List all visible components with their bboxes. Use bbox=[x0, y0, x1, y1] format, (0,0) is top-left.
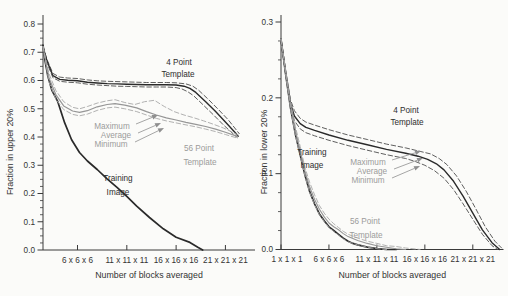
series-4-point-template-average bbox=[281, 39, 500, 249]
annotation-arrowhead-icon bbox=[417, 158, 423, 162]
y-axis-title: Fraction in upper 20% bbox=[5, 109, 15, 195]
annotation-label: Template bbox=[161, 70, 195, 79]
annotation-label: Training bbox=[103, 174, 133, 183]
annotation-label: 56 Point bbox=[350, 217, 381, 226]
x-tick-label: 21 x 21 x 21 bbox=[203, 256, 248, 265]
annotation-label: Average bbox=[357, 167, 388, 176]
y-tick-label: 0.6 bbox=[24, 76, 36, 85]
y-tick-label: 0.4 bbox=[24, 133, 36, 142]
annotation-label: Minimum bbox=[351, 176, 384, 185]
annotation-arrowhead-icon bbox=[415, 150, 421, 155]
x-tick-label: 21 x 21 x 21 bbox=[451, 255, 496, 264]
y-axis-title: Fraction in lower 20% bbox=[259, 110, 269, 195]
annotation-arrowhead-icon bbox=[158, 128, 164, 133]
y-tick-label: 0.3 bbox=[262, 18, 274, 27]
figure-canvas: 0.00.10.20.30.40.50.60.70.86 x 6 x 611 x… bbox=[0, 0, 508, 296]
series-4-point-template-maximum bbox=[43, 47, 239, 134]
annotation-label: Minimum bbox=[94, 140, 127, 149]
series-4-point-template-minimum bbox=[281, 39, 498, 249]
x-tick-label: 6 x 6 x 6 bbox=[313, 255, 344, 264]
annotation-arrowhead-icon bbox=[414, 166, 420, 171]
annotation-arrow-line bbox=[138, 125, 155, 133]
y-tick-label: 0.7 bbox=[24, 48, 36, 57]
annotation-label: 4 Point bbox=[166, 58, 192, 67]
annotation-label: Image bbox=[301, 161, 324, 170]
annotation-label: Average bbox=[101, 131, 132, 140]
annotation-arrow-line bbox=[135, 131, 159, 142]
annotation-label: Maximum bbox=[94, 122, 130, 131]
series-4-point-template-minimum bbox=[43, 47, 237, 138]
annotation-label: Maximum bbox=[350, 158, 386, 167]
chart-left: 0.00.10.20.30.40.50.60.70.86 x 6 x 611 x… bbox=[5, 15, 255, 280]
x-tick-label: 11 x 11 x 11 bbox=[356, 255, 399, 264]
x-tick-label: 6 x 6 x 6 bbox=[62, 256, 93, 265]
y-tick-label: 0.0 bbox=[24, 246, 36, 255]
annotation-label: 56 Point bbox=[184, 144, 215, 153]
annotation-label: Image bbox=[107, 188, 130, 197]
y-tick-label: 0.1 bbox=[24, 218, 36, 227]
y-tick-label: 0.0 bbox=[262, 245, 274, 254]
x-tick-label: 11 x 11 x 11 bbox=[105, 256, 148, 265]
chart-right: 0.00.10.20.31 x 1 x 16 x 6 x 611 x 11 x … bbox=[259, 15, 504, 280]
y-tick-label: 0.5 bbox=[24, 105, 36, 114]
series-56-point-template-average bbox=[43, 47, 237, 137]
annotation-label: 4 Point bbox=[393, 106, 419, 115]
series-4-point-template-maximum bbox=[281, 39, 502, 248]
y-tick-label: 0.3 bbox=[24, 161, 36, 170]
x-tick-label: 1 x 1 x 1 bbox=[272, 255, 303, 264]
annotation-label: Training bbox=[297, 148, 327, 157]
annotation-label: Template bbox=[349, 231, 383, 240]
x-axis-title: Number of blocks averaged bbox=[338, 270, 446, 280]
y-tick-label: 0.8 bbox=[24, 20, 36, 29]
annotation-arrow-line bbox=[392, 168, 414, 178]
series-56-point-template-minimum bbox=[43, 47, 236, 138]
annotation-label: Template bbox=[390, 118, 424, 127]
y-tick-label: 0.2 bbox=[262, 94, 274, 103]
figure-root: 0.00.10.20.30.40.50.60.70.86 x 6 x 611 x… bbox=[0, 0, 508, 296]
annotation-arrowhead-icon bbox=[155, 123, 161, 128]
annotation-arrow-line bbox=[136, 117, 152, 124]
annotation-arrow-line bbox=[394, 160, 417, 169]
annotation-label: Template bbox=[183, 158, 217, 167]
x-tick-label: 16 x 16 x 16 bbox=[154, 256, 199, 265]
x-axis-title: Number of blocks averaged bbox=[95, 270, 203, 280]
x-tick-label: 16 x 16 x 16 bbox=[403, 255, 448, 264]
y-tick-label: 0.2 bbox=[24, 189, 36, 198]
